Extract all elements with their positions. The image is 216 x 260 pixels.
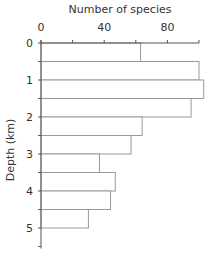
x-tick-label: 40 [97, 21, 111, 34]
x-tick-labels: 04080 [38, 21, 175, 34]
y-tick-label: 5 [26, 222, 33, 235]
bar-depth-3.5-4 [41, 173, 115, 192]
bar-depth-2-2.5 [41, 117, 142, 136]
bar-depth-2.5-3 [41, 136, 131, 155]
bar-depth-4-4.5 [41, 191, 111, 210]
chart: Number of species 04080 012345 Depth (km… [0, 0, 216, 260]
bar-depth-1.5-2 [41, 99, 191, 118]
y-tick-label: 3 [26, 148, 33, 161]
y-tick-labels: 012345 [26, 37, 33, 235]
bar-depth-0-0.5 [41, 43, 141, 62]
x-tick-label: 80 [160, 21, 174, 34]
bar-depth-1-1.5 [41, 80, 204, 99]
bar-depth-4.5-5 [41, 210, 88, 229]
bar-depth-0.5-1 [41, 62, 199, 81]
y-tick-label: 2 [26, 111, 33, 124]
y-tick-label: 4 [26, 185, 33, 198]
y-tick-label: 1 [26, 74, 33, 87]
bars [41, 43, 204, 228]
y-axis-label: Depth (km) [4, 119, 17, 182]
x-tick-label: 0 [38, 21, 45, 34]
y-tick-label: 0 [26, 37, 33, 50]
bar-depth-3-3.5 [41, 154, 99, 173]
x-axis-label: Number of species [69, 3, 172, 16]
